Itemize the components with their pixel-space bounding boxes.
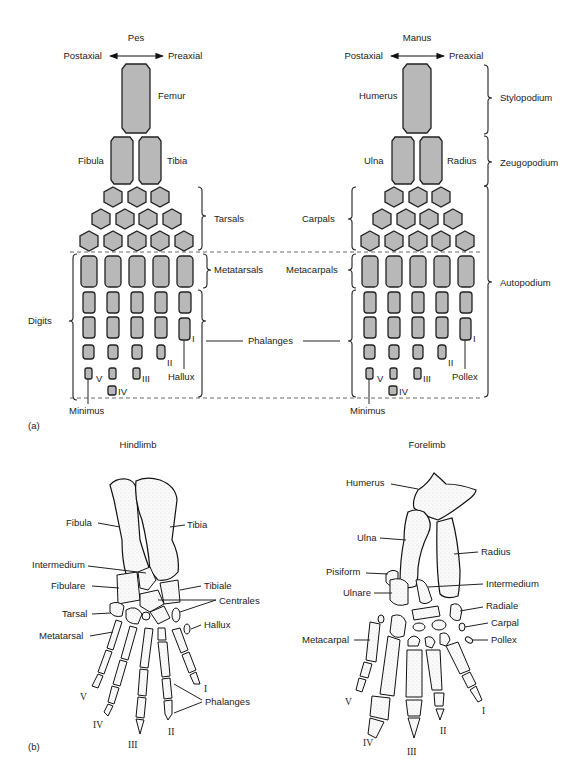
forelimb-carpal-leader xyxy=(465,623,488,627)
hindlimb-tarsal-bone-1 xyxy=(110,602,124,616)
pes-preaxial-label: Preaxial xyxy=(168,50,202,61)
hallux-sesamoid-bone xyxy=(184,624,190,634)
hindlimb-numeral-i: I xyxy=(204,684,207,694)
carpal-bones xyxy=(361,187,474,251)
femur-bone xyxy=(122,64,150,133)
radiale-leader xyxy=(460,607,483,611)
hindlimb-hallux-label: Hallux xyxy=(204,619,231,630)
metatarsals-brace xyxy=(203,254,211,288)
pes-numeral-ii: II xyxy=(167,357,172,368)
manus-numeral-v: V xyxy=(377,373,384,384)
tarsals-label: Tarsals xyxy=(214,213,244,224)
pollex-b-label: Pollex xyxy=(491,634,517,645)
pes-minimus-label: Minimus xyxy=(69,405,105,416)
manus-schematic: Manus Postaxial Preaxial Humerus Ulna Ra… xyxy=(286,32,558,416)
centrales-label: Centrales xyxy=(219,595,260,606)
forelimb-carpal-6 xyxy=(425,637,435,648)
zeugopodium-brace xyxy=(484,136,492,186)
metacarpals-brace xyxy=(348,254,356,288)
manus-numeral-iii: III xyxy=(423,373,431,384)
hindlimb-fibula-label: Fibula xyxy=(66,517,93,528)
digits-brace xyxy=(69,254,77,400)
manus-numeral-i: I xyxy=(473,333,476,344)
pollex-label: Pollex xyxy=(452,371,478,382)
hindlimb-tarsal-bone-3 xyxy=(142,612,150,620)
hindlimb-phalanges-leader-2 xyxy=(174,702,202,713)
radius-label: Radius xyxy=(447,155,477,166)
forelimb-radius-label: Radius xyxy=(481,546,511,557)
tibia-label: Tibia xyxy=(167,155,188,166)
forelimb-numeral-v: V xyxy=(345,697,352,707)
zeugopodium-label: Zeugopodium xyxy=(500,157,558,168)
hindlimb-numeral-iii: III xyxy=(128,740,138,750)
pes-numeral-iii: III xyxy=(142,373,150,384)
hindlimb-tarsal-label: Tarsal xyxy=(62,608,87,619)
carpals-label: Carpals xyxy=(302,213,335,224)
forelimb-numeral-i: I xyxy=(482,706,485,716)
forelimb-carpal-7 xyxy=(440,633,450,646)
fibula-bone xyxy=(111,137,133,184)
hallux-label: Hallux xyxy=(168,371,195,382)
femur-label: Femur xyxy=(158,90,185,101)
forelimb-small-carpal-1 xyxy=(378,615,384,623)
humerus-label: Humerus xyxy=(359,90,398,101)
panel-b-label: (b) xyxy=(28,741,40,752)
manus-minimus-label: Minimus xyxy=(350,405,386,416)
hindlimb-numeral-ii: II xyxy=(168,727,174,737)
metacarpal-label: Metacarpal xyxy=(302,634,349,645)
manus-phalanges-brace xyxy=(348,290,356,397)
pisiform-label: Pisiform xyxy=(326,566,360,577)
hindlimb-fibula-leader xyxy=(98,523,120,527)
pes-schematic: Pes Postaxial Preaxial Femur Fibula Tibi… xyxy=(28,32,263,416)
fibulare-label: Fibulare xyxy=(51,580,85,591)
hindlimb-tarsal-bone-2 xyxy=(126,608,142,624)
forelimb-humerus-leader xyxy=(391,484,418,489)
forelimb-carpal-5 xyxy=(408,636,420,646)
fibulare-bone xyxy=(117,572,140,604)
manus-preaxial-label: Preaxial xyxy=(449,50,483,61)
hindlimb-title: Hindlimb xyxy=(120,439,157,450)
centrales-leader-2 xyxy=(180,600,216,612)
hindlimb-hallux-leader xyxy=(191,625,201,629)
hindlimb-digits xyxy=(92,620,200,734)
forelimb-numeral-iv: IV xyxy=(363,738,373,748)
forelimb-ulna-label: Ulna xyxy=(357,532,377,543)
manus-title: Manus xyxy=(403,32,432,43)
hindlimb-numeral-iv: IV xyxy=(93,720,103,730)
phalanges-label: Phalanges xyxy=(248,335,293,346)
tibia-bone xyxy=(139,137,161,184)
pisiform-leader xyxy=(366,573,388,574)
forelimb-ulna-leader xyxy=(380,538,406,540)
manus-numeral-ii: II xyxy=(448,357,453,368)
forelimb-carpal-3 xyxy=(413,623,425,631)
ulnare-label: Ulnare xyxy=(343,587,371,598)
tarsals-brace xyxy=(198,187,206,250)
hindlimb-tarsal-leader xyxy=(92,613,111,614)
limb-skeleton-diagram: Pes Postaxial Preaxial Femur Fibula Tibi… xyxy=(0,0,581,768)
humerus-bone xyxy=(403,64,431,133)
radius-bone xyxy=(420,137,442,184)
hindlimb-numeral-v: V xyxy=(80,692,87,702)
forelimb-numeral-ii: II xyxy=(440,726,446,736)
stylopodium-label: Stylopodium xyxy=(500,92,552,103)
pes-postaxial-label: Postaxial xyxy=(63,50,102,61)
panel-a-label: (a) xyxy=(28,420,40,431)
radiale-bone xyxy=(450,604,462,621)
carpals-brace xyxy=(348,187,356,250)
manus-numeral-iv: IV xyxy=(399,386,409,397)
stylopodium-brace xyxy=(484,65,492,134)
forelimb-carpal-label: Carpal xyxy=(491,617,519,628)
forelimb-humerus-label: Humerus xyxy=(346,477,385,488)
metacarpal-bones xyxy=(362,256,474,287)
autopodium-label: Autopodium xyxy=(500,277,551,288)
fibulare-leader xyxy=(92,586,119,588)
metatarsal-bones xyxy=(81,256,193,287)
hindlimb-metatarsal-leader xyxy=(90,632,113,636)
radiale-label: Radiale xyxy=(486,600,518,611)
hindlimb-phalanges-leader-1 xyxy=(174,684,202,700)
hindlimb-illustration: Hindlimb xyxy=(32,439,260,750)
tibiale-leader xyxy=(180,586,201,590)
forelimb-intermedium-bone xyxy=(416,580,432,604)
metatarsals-label: Metatarsals xyxy=(214,264,263,275)
forelimb-numeral-iii: III xyxy=(407,747,417,757)
